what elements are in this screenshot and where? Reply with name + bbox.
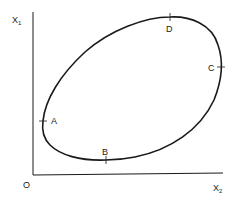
closed-curve [43,17,222,160]
x-axis-label: X2 [213,183,223,194]
point-label-b: B [102,147,108,157]
x-axis-label-sub: 2 [219,188,223,194]
point-label-a: A [51,116,57,126]
diagram-canvas: D C A B X1 X2 O [0,0,237,202]
point-label-d: D [166,24,173,34]
point-label-c: C [208,63,215,73]
y-axis-label: X1 [12,15,22,26]
y-axis-label-sub: 1 [18,20,22,26]
origin-label: O [23,180,30,190]
x-axis [33,173,223,175]
